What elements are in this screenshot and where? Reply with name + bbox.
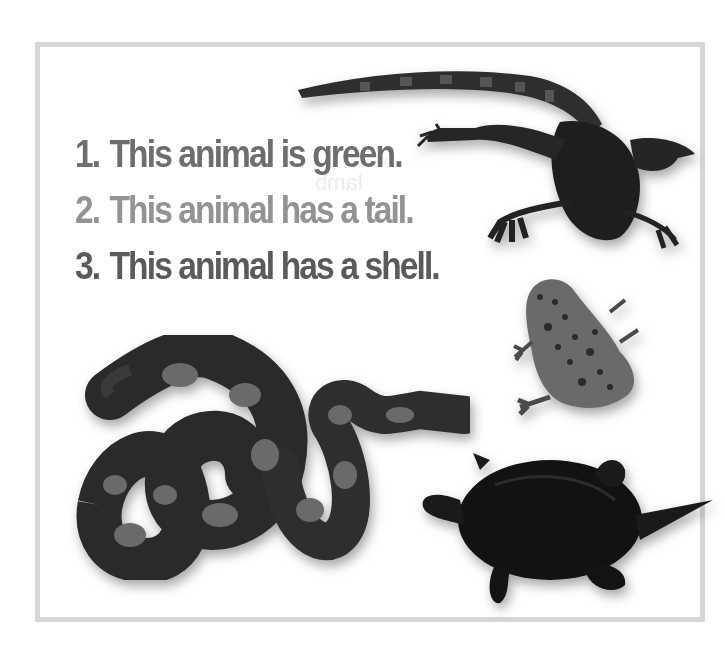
snake-image: [70, 335, 470, 580]
clue-number: 2.: [75, 182, 99, 238]
turtle-image: [415, 445, 720, 610]
iguana-image: [290, 62, 710, 252]
clue-number: 1.: [75, 126, 99, 182]
frog-image: [510, 272, 650, 422]
clue-number: 3.: [75, 238, 99, 294]
